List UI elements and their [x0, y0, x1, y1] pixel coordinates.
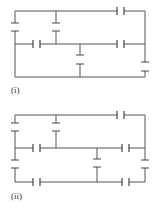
circuit-diagram-ii — [11, 111, 149, 186]
capacitor-left-lower — [11, 160, 19, 168]
capacitor-left — [11, 23, 19, 31]
capacitor-top — [117, 7, 124, 15]
circuit-diagram-i — [11, 7, 149, 77]
capacitor-bottom-left — [33, 178, 40, 186]
diagram-label-ii: (ii) — [11, 191, 22, 201]
capacitor-right — [141, 62, 149, 71]
capacitor-mid-left — [33, 40, 40, 48]
capacitor-bottom-right — [122, 178, 129, 186]
capacitor-upper-mid — [52, 23, 60, 31]
capacitor-mid-right — [117, 40, 124, 48]
capacitor-right — [141, 160, 149, 168]
capacitor-lower-mid — [93, 159, 101, 167]
circuit-figure — [0, 0, 158, 210]
diagram-label-i: (i) — [11, 85, 20, 95]
capacitor-mid-left — [33, 144, 40, 152]
capacitor-upper-mid — [52, 123, 60, 131]
capacitor-lower-mid — [76, 55, 84, 64]
capacitor-top — [117, 111, 124, 119]
capacitor-left-upper — [11, 123, 19, 131]
capacitor-mid-right — [122, 144, 129, 152]
